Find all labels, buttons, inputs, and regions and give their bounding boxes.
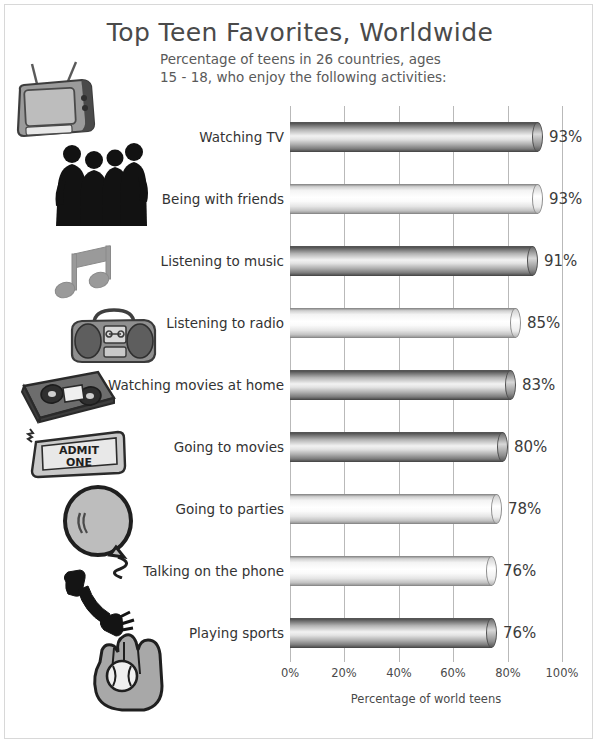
category-label: Going to parties [74,501,284,517]
bar-body [290,370,511,400]
value-label: 78% [508,500,541,518]
table-row: Playing sports 76% [0,602,598,664]
category-label: Being with friends [74,191,284,207]
infographic-poster: Top Teen Favorites, Worldwide Percentage… [0,0,598,744]
bar-body [290,432,503,462]
category-label-wrap: Listening to music [78,230,284,292]
xtick-60: 60% [440,666,466,680]
table-row: Listening to radio 85% [0,292,598,354]
xtick-0: 0% [281,666,299,680]
bar-body [290,494,497,524]
bar-listening-to-radio [290,308,521,338]
bar-watching-tv [290,122,543,152]
bar-cap [486,556,497,586]
category-label-wrap: Watching TV [78,106,284,168]
value-label: 93% [549,128,582,146]
bar-going-to-parties [290,494,502,524]
category-label: Going to movies [74,439,284,455]
bar-being-with-friends [290,184,543,214]
category-label: Talking on the phone [74,563,284,579]
category-label-wrap: Listening to radio [78,292,284,354]
bar-going-to-movies [290,432,508,462]
bar-watching-movies-at-home [290,370,516,400]
category-label-wrap: Going to movies [78,416,284,478]
table-row: Going to parties 78% [0,478,598,540]
bar-chart: Watching TV 93% Being with friends 93% L… [0,0,598,744]
category-label-wrap: Playing sports [78,602,284,664]
value-label: 91% [544,252,577,270]
bar-cap [527,246,538,276]
xtick-100: 100% [546,666,579,680]
bar-body [290,618,492,648]
bar-cap [510,308,521,338]
bar-cap [491,494,502,524]
bar-body [290,556,492,586]
bar-cap [497,432,508,462]
bar-body [290,184,538,214]
table-row: Watching movies at home 83% [0,354,598,416]
bar-cap [532,122,543,152]
table-row: Listening to music 91% [0,230,598,292]
value-label: 80% [514,438,547,456]
bar-body [290,122,538,152]
bar-cap [532,184,543,214]
category-label: Watching movies at home [74,377,284,393]
bar-cap [505,370,516,400]
table-row: Being with friends 93% [0,168,598,230]
table-row: Watching TV 93% [0,106,598,168]
category-label-wrap: Being with friends [78,168,284,230]
table-row: Talking on the phone 76% [0,540,598,602]
category-label: Listening to music [74,253,284,269]
xtick-80: 80% [495,666,521,680]
value-label: 85% [527,314,560,332]
bar-body [290,246,533,276]
value-label: 83% [522,376,555,394]
category-label: Listening to radio [74,315,284,331]
table-row: Going to movies 80% [0,416,598,478]
xtick-40: 40% [386,666,412,680]
bar-playing-sports [290,618,497,648]
category-label-wrap: Watching movies at home [78,354,284,416]
bar-listening-to-music [290,246,538,276]
category-label-wrap: Going to parties [78,478,284,540]
value-label: 76% [503,624,536,642]
value-label: 76% [503,562,536,580]
category-label: Watching TV [74,129,284,145]
bar-body [290,308,516,338]
xtick-20: 20% [331,666,357,680]
bar-cap [486,618,497,648]
bar-talking-on-the-phone [290,556,497,586]
x-axis-label: Percentage of world teens [290,692,562,706]
category-label-wrap: Talking on the phone [78,540,284,602]
value-label: 93% [549,190,582,208]
category-label: Playing sports [74,625,284,641]
